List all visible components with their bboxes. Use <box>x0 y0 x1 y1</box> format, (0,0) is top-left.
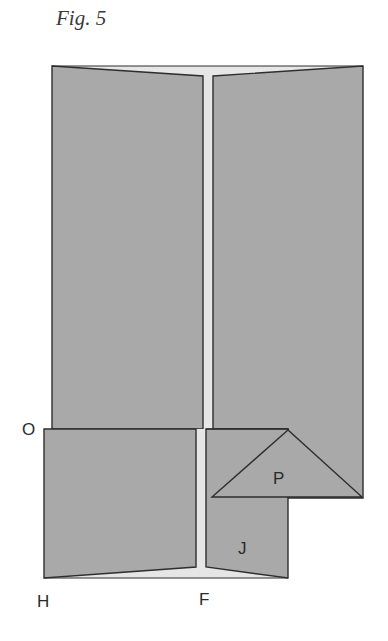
label-h: H <box>37 592 49 611</box>
bottom-left-panel <box>44 429 196 578</box>
fold-diagram: O P J H F <box>0 0 388 641</box>
label-j: J <box>238 539 247 558</box>
label-o: O <box>22 420 35 439</box>
label-p: P <box>273 469 284 488</box>
top-left-panel <box>52 66 203 429</box>
label-f: F <box>199 590 209 609</box>
